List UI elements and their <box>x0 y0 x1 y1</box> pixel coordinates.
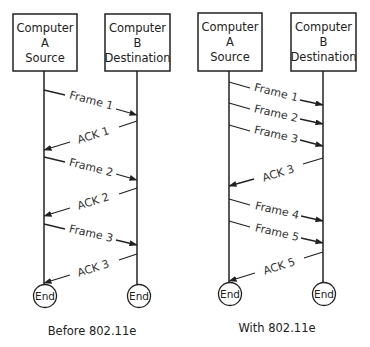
message-label: ACK 2 <box>76 190 111 212</box>
message-frame-1: Frame 1 <box>44 88 137 115</box>
box-label-line2: A <box>41 36 49 50</box>
box-label-line3: Source <box>210 50 250 64</box>
box-label-line1: Computer <box>295 20 352 34</box>
message-frame-3: Frame 3 <box>44 222 137 245</box>
svg-text:End: End <box>314 288 334 300</box>
message-label: Frame 1 <box>68 88 115 112</box>
end-node-b: End <box>313 283 336 306</box>
box-label-line3: Destination <box>105 51 171 65</box>
message-ack-2: ACK 2 <box>44 188 137 216</box>
message-label: ACK 3 <box>261 162 296 184</box>
box-label-line1: Computer <box>109 21 166 35</box>
message-frame-2: Frame 2 <box>44 156 137 180</box>
computer-b-destination-box: Computer B Destination <box>105 14 171 71</box>
box-label-line3: Destination <box>291 50 357 64</box>
end-node-a: End <box>219 283 242 306</box>
box-label-line2: B <box>134 36 142 50</box>
message-ack-1: ACK 1 <box>44 121 137 150</box>
message-label: Frame 1 <box>253 81 300 104</box>
message-label: Frame 2 <box>253 102 300 125</box>
computer-a-source-box: Computer A Source <box>13 14 77 71</box>
box-label-line2: A <box>226 35 234 49</box>
message-label: ACK 1 <box>76 124 111 146</box>
message-label: ACK 5 <box>262 255 297 277</box>
message-label: ACK 3 <box>76 257 111 279</box>
diagram-with-80211e: Computer A Source Computer B Destination… <box>198 13 357 335</box>
message-frame-3: Frame 3 <box>229 123 323 146</box>
box-label-line2: B <box>320 35 328 49</box>
message-label: Frame 3 <box>68 222 115 245</box>
computer-b-destination-box: Computer B Destination <box>291 13 357 71</box>
message-ack-5: ACK 5 <box>229 252 323 281</box>
end-node-a: End <box>34 285 57 308</box>
computer-a-source-box: Computer A Source <box>198 13 262 71</box>
caption-with: With 802.11e <box>238 321 315 335</box>
message-frame-1: Frame 1 <box>229 81 323 105</box>
message-frame-5: Frame 5 <box>229 221 323 244</box>
message-ack-3: ACK 3 <box>44 254 137 283</box>
message-ack-3: ACK 3 <box>229 158 323 186</box>
svg-text:End: End <box>129 290 149 302</box>
end-node-b: End <box>128 285 151 308</box>
box-label-line1: Computer <box>16 21 73 35</box>
message-frame-2: Frame 2 <box>229 102 323 125</box>
message-label: Frame 3 <box>253 123 300 146</box>
message-frame-4: Frame 4 <box>229 199 323 222</box>
caption-before: Before 802.11e <box>48 324 137 338</box>
diagram-before-80211e: Computer A Source Computer B Destination… <box>13 14 171 338</box>
svg-text:End: End <box>35 290 55 302</box>
message-label: Frame 4 <box>254 199 301 222</box>
box-label-line3: Source <box>25 51 65 65</box>
message-label: Frame 2 <box>68 156 115 179</box>
sequence-diagrams: Computer A Source Computer B Destination… <box>0 0 370 347</box>
message-label: Frame 5 <box>254 221 301 244</box>
svg-text:End: End <box>220 288 240 300</box>
box-label-line1: Computer <box>201 20 258 34</box>
